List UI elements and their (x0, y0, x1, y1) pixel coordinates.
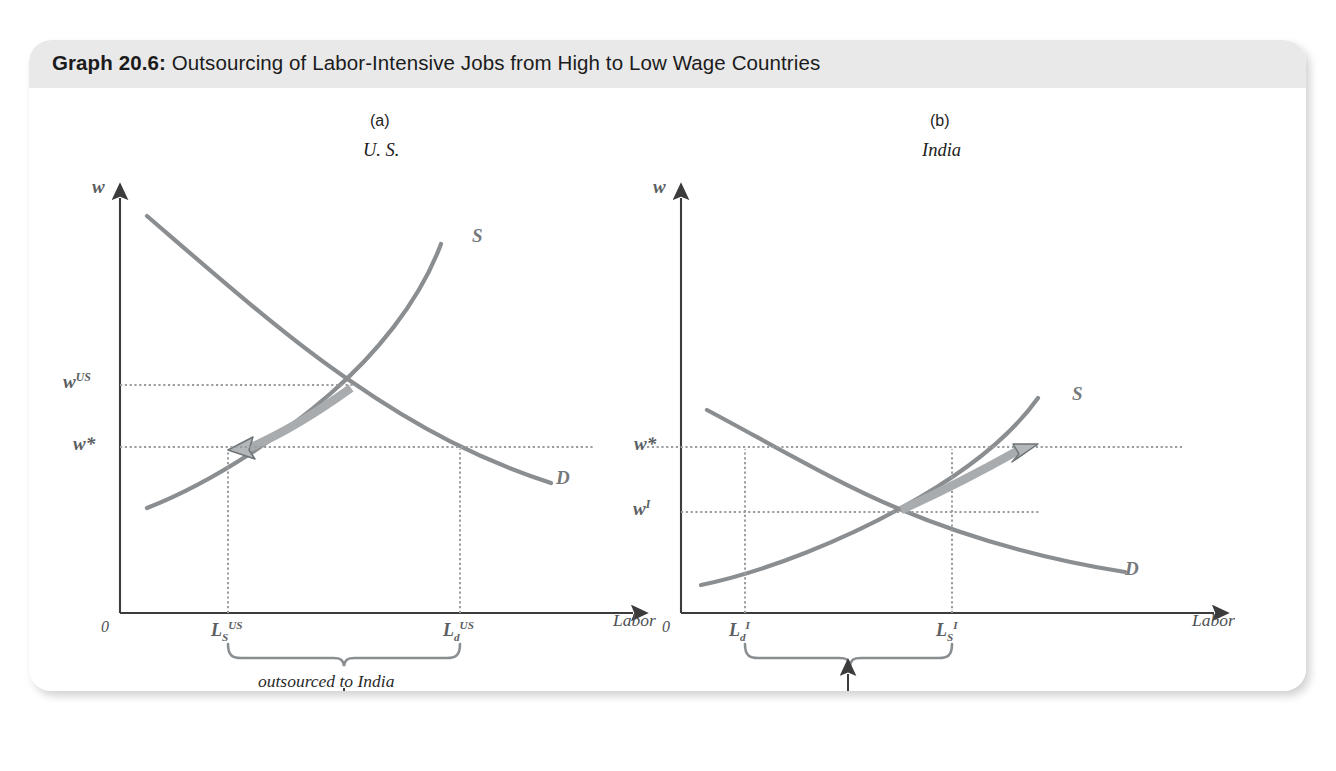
panel-a-supply-curve (147, 244, 441, 508)
panel-b-y-axis-label: w (653, 176, 666, 198)
outsourced-annotation: outsourced to India (258, 671, 394, 691)
panel-a-y-axis-label: w (92, 176, 105, 198)
panel-a-origin-label: 0 (101, 618, 109, 636)
panel-b-supply-label: S (1072, 383, 1083, 405)
panel-b-origin-label: 0 (662, 618, 670, 636)
panel-a-movement-arrow (228, 388, 351, 459)
panel-b-labor-supply-label: LSI (936, 619, 958, 643)
panel-a-wage-equilibrium-label: wUS (63, 371, 91, 393)
panel-b-name: India (922, 140, 961, 161)
economics-figure (29, 88, 1306, 691)
panel-a-labor-demand-label: LdUS (443, 619, 474, 643)
panel-a-labor-supply-label: LSUS (211, 619, 242, 643)
panel-b-supply-curve (701, 398, 1038, 585)
panel-b-x-axis-label: Labor (1192, 610, 1235, 631)
panel-a-world-wage-label: w* (73, 433, 95, 455)
panel-b-world-wage-label: w* (634, 433, 656, 455)
panel-a-supply-label: S (472, 225, 483, 247)
graph-number: Graph 20.6: (52, 51, 166, 74)
panel-b-tag: (b) (930, 112, 950, 130)
panel-b-demand-curve (707, 410, 1125, 572)
panel-b-demand-label: D (1125, 558, 1139, 580)
screenshot-root: Graph 20.6: Outsourcing of Labor-Intensi… (0, 0, 1336, 771)
panel-b-labor-demand-label: LdI (729, 619, 750, 643)
panel-b-movement-arrow (901, 444, 1038, 510)
panel-a-brace (228, 644, 460, 666)
panel-a-demand-curve (147, 216, 551, 483)
panel-b-brace (745, 644, 952, 666)
page-title: Graph 20.6: Outsourcing of Labor-Intensi… (52, 51, 820, 75)
panel-a-demand-label: D (556, 467, 570, 489)
panel-b-axes (681, 198, 1214, 613)
figure-area: (a) U. S. w 0 Labor S D wUS w* LSUS LdUS… (29, 88, 1306, 691)
graph-title-text: Outsourcing of Labor-Intensive Jobs from… (166, 51, 820, 74)
panel-a-name: U. S. (363, 140, 400, 161)
panel-a-tag: (a) (370, 112, 390, 130)
panel-a-x-axis-label: Labor (613, 610, 656, 631)
outsourcing-connector (344, 674, 848, 691)
graph-card: Graph 20.6: Outsourcing of Labor-Intensi… (29, 40, 1306, 691)
panel-b-wage-equilibrium-label: wI (633, 498, 650, 520)
